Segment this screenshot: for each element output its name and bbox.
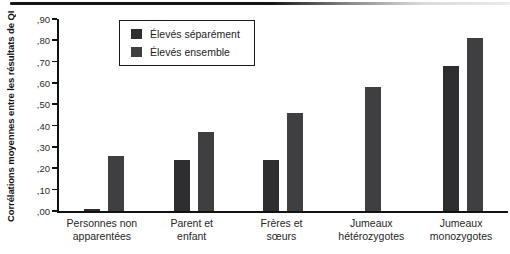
- y-tick-mark: [52, 125, 57, 127]
- bar: [84, 209, 100, 211]
- y-tick-label: ,40: [37, 121, 50, 132]
- y-tick-mark: [52, 146, 57, 148]
- y-tick-mark: [52, 167, 57, 169]
- legend-item: Élevés ensemble: [131, 46, 240, 58]
- y-tick-mark: [52, 39, 57, 41]
- legend-swatch-icon: [131, 29, 142, 39]
- bar: [365, 87, 381, 211]
- legend-item: Élevés séparément: [131, 28, 240, 40]
- bar-group: [418, 19, 508, 211]
- y-tick-label: ,00: [37, 206, 50, 217]
- legend-label: Élevés séparément: [150, 28, 240, 40]
- plot-area: ,00,10,20,30,40,50,60,70,80,90 Élevés sé…: [57, 19, 508, 213]
- category-label: Frères etsœurs: [237, 217, 327, 242]
- y-tick-mark: [52, 103, 57, 105]
- bar: [467, 38, 483, 211]
- y-tick-mark: [52, 18, 57, 20]
- y-tick-label: ,80: [37, 35, 50, 46]
- y-axis-title: Corrélations moyennes entre les résultat…: [3, 12, 18, 220]
- y-tick-mark: [52, 210, 57, 212]
- bar-group: [328, 19, 418, 211]
- legend: Élevés séparémentÉlevés ensemble: [119, 20, 255, 66]
- category-label: Jumeauxhétérozygotes: [326, 217, 416, 242]
- legend-swatch-icon: [131, 47, 142, 57]
- bar: [443, 66, 459, 211]
- category-label: Jumeauxmonozygotes: [416, 217, 506, 242]
- category-label: Personnes nonapparentées: [57, 217, 147, 242]
- y-tick-label: ,70: [37, 57, 50, 68]
- iq-correlation-bar-chart: Corrélations moyennes entre les résultat…: [0, 0, 510, 254]
- bar: [174, 160, 190, 211]
- y-tick-mark: [52, 82, 57, 84]
- y-tick-label: ,10: [37, 185, 50, 196]
- x-axis-labels: Personnes nonapparentéesParent etenfantF…: [57, 217, 506, 242]
- y-tick-label: ,90: [37, 14, 50, 25]
- legend-label: Élevés ensemble: [150, 46, 230, 58]
- y-tick-label: ,20: [37, 163, 50, 174]
- y-tick-mark: [52, 189, 57, 191]
- top-rule-divider: [10, 2, 510, 5]
- bar: [108, 156, 124, 211]
- bar: [287, 113, 303, 211]
- category-label: Parent etenfant: [147, 217, 237, 242]
- y-tick-mark: [52, 61, 57, 63]
- bar: [263, 160, 279, 211]
- y-tick-label: ,50: [37, 99, 50, 110]
- y-tick-label: ,60: [37, 78, 50, 89]
- y-tick-label: ,30: [37, 142, 50, 153]
- bar: [198, 132, 214, 211]
- legend-items: Élevés séparémentÉlevés ensemble: [131, 28, 240, 58]
